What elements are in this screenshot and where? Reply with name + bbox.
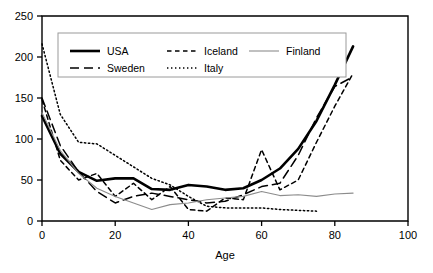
legend-label-usa: USA: [107, 45, 129, 57]
legend-label-italy: Italy: [204, 62, 224, 74]
y-axis: 050100150200250: [15, 10, 42, 227]
x-tick-label-2: 40: [182, 229, 194, 241]
y-tick-label-5: 250: [15, 10, 33, 22]
legend-label-sweden: Sweden: [107, 62, 145, 74]
series-line-iceland: [42, 73, 353, 211]
x-tick-label-3: 60: [255, 229, 267, 241]
x-tick-label-4: 80: [329, 229, 341, 241]
y-tick-label-2: 100: [15, 133, 33, 145]
series-line-sweden: [42, 77, 353, 203]
y-tick-label-4: 200: [15, 51, 33, 63]
series-line-finland: [42, 113, 353, 210]
legend-label-iceland: Iceland: [204, 45, 238, 57]
x-tick-label-1: 20: [109, 229, 121, 241]
y-tick-label-1: 50: [21, 174, 33, 186]
legend-label-finland: Finland: [286, 45, 321, 57]
x-axis-title: Age: [215, 249, 235, 261]
legend: USASwedenIcelandItalyFinland: [58, 33, 346, 77]
y-tick-label-3: 150: [15, 92, 33, 104]
x-tick-label-0: 0: [39, 229, 45, 241]
chart-canvas: 050100150200250020406080100AgeUSASwedenI…: [0, 0, 433, 273]
line-chart: 050100150200250020406080100AgeUSASwedenI…: [0, 0, 433, 273]
x-axis: 020406080100: [39, 221, 417, 241]
x-tick-label-5: 100: [399, 229, 417, 241]
y-tick-label-0: 0: [27, 215, 33, 227]
